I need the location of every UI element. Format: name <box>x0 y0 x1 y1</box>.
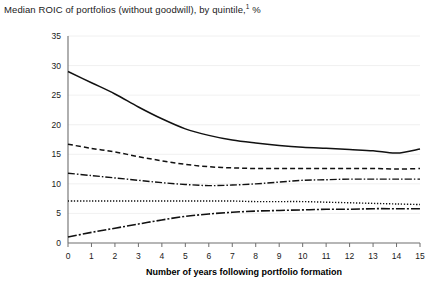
x-tick-label: 8 <box>253 251 258 261</box>
x-tick-label: 5 <box>183 251 188 261</box>
x-tick-label: 3 <box>136 251 141 261</box>
x-tick-label: 7 <box>230 251 235 261</box>
x-axis-title: Number of years following portfolio form… <box>146 267 342 277</box>
x-tick-label: 14 <box>392 251 402 261</box>
chart-plot: 05101520253035 0123456789101112131415 Nu… <box>0 0 428 290</box>
x-tick-label: 15 <box>415 251 425 261</box>
y-tick-label: 0 <box>56 238 61 248</box>
series-line <box>68 71 420 153</box>
x-axis-ticks: 0123456789101112131415 <box>66 243 425 261</box>
x-tick-label: 9 <box>277 251 282 261</box>
series-line <box>68 144 420 169</box>
y-tick-label: 15 <box>52 149 62 159</box>
y-tick-label: 30 <box>52 61 62 71</box>
x-tick-label: 11 <box>322 251 331 261</box>
series-line <box>68 209 420 237</box>
x-tick-label: 10 <box>298 251 308 261</box>
y-tick-label: 25 <box>52 90 62 100</box>
x-tick-label: 2 <box>113 251 118 261</box>
chart-container: Median ROIC of portfolios (without goodw… <box>0 0 428 290</box>
x-tick-label: 4 <box>159 251 164 261</box>
series-line <box>68 201 420 205</box>
y-tick-label: 20 <box>52 120 62 130</box>
x-tick-label: 0 <box>66 251 71 261</box>
x-tick-label: 6 <box>206 251 211 261</box>
x-tick-label: 12 <box>345 251 355 261</box>
gridlines <box>68 36 420 213</box>
y-tick-label: 5 <box>56 208 61 218</box>
y-tick-label: 35 <box>52 31 62 41</box>
x-tick-label: 1 <box>89 251 94 261</box>
y-axis-ticks: 05101520253035 <box>52 31 62 248</box>
y-tick-label: 10 <box>52 179 62 189</box>
x-tick-label: 13 <box>368 251 378 261</box>
